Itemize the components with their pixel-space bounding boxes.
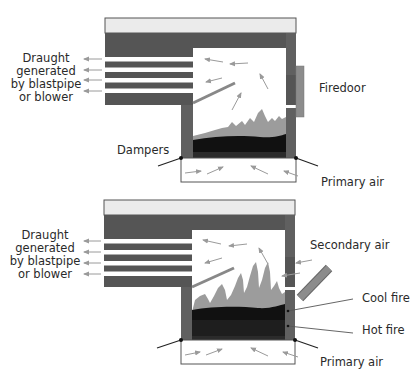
svg-text:or blower: or blower: [19, 90, 73, 104]
firebox-right-wall-upper: [285, 215, 295, 257]
firebox-right-wall-lower: [286, 108, 296, 158]
svg-text:by blastpipe: by blastpipe: [11, 77, 82, 91]
ashpan: [181, 158, 296, 182]
primary-air-label-top: Primary air: [321, 175, 384, 189]
boiler-top-band: [105, 18, 296, 33]
svg-text:Draught: Draught: [21, 228, 69, 242]
dampers-label: Dampers: [117, 143, 169, 157]
damper-pivot-left: [179, 156, 183, 160]
firedoor-closed: [296, 66, 304, 117]
cool-fire-label: Cool fire: [362, 291, 410, 305]
firebox-right-wall-lower: [285, 290, 295, 340]
firebox-left-wall: [181, 105, 193, 158]
hot-fire-layer: [192, 320, 285, 336]
damper-right: [295, 340, 318, 348]
svg-text:generated: generated: [16, 64, 75, 78]
primary-air-label-bottom: Primary air: [320, 355, 383, 369]
firebox-right-wall-upper: [286, 33, 296, 75]
svg-text:generated: generated: [15, 241, 74, 255]
cool-fire-leader: [288, 299, 353, 311]
grate: [192, 336, 285, 340]
hot-fire-leader: [288, 326, 353, 333]
boiler-top-band: [104, 200, 295, 215]
draught-label-top: Draught generated by blastpipe or blower: [11, 51, 82, 104]
draught-label-bottom: Draught generated by blastpipe or blower: [10, 228, 81, 281]
firebox-left-wall: [181, 287, 192, 340]
damper-pivot-left: [179, 338, 183, 342]
coal-bed-dark: [193, 152, 286, 158]
bottom-firebox-diagram: Draught generated by blastpipe or blower…: [10, 200, 410, 369]
damper-left: [158, 158, 181, 166]
hot-fire-label: Hot fire: [362, 323, 405, 337]
secondary-air-label: Secondary air: [310, 238, 390, 252]
firebox-diagram: Draught generated by blastpipe or blower…: [0, 0, 417, 381]
firedoor-label: Firedoor: [319, 81, 366, 95]
damper-left: [157, 340, 181, 348]
damper-pivot-right: [294, 156, 298, 160]
damper-right: [296, 158, 318, 166]
damper-pivot-right: [293, 338, 297, 342]
top-firebox-diagram: Draught generated by blastpipe or blower…: [11, 18, 385, 189]
svg-text:by blastpipe: by blastpipe: [10, 254, 81, 268]
svg-text:Draught: Draught: [22, 51, 70, 65]
svg-text:or blower: or blower: [18, 267, 72, 281]
